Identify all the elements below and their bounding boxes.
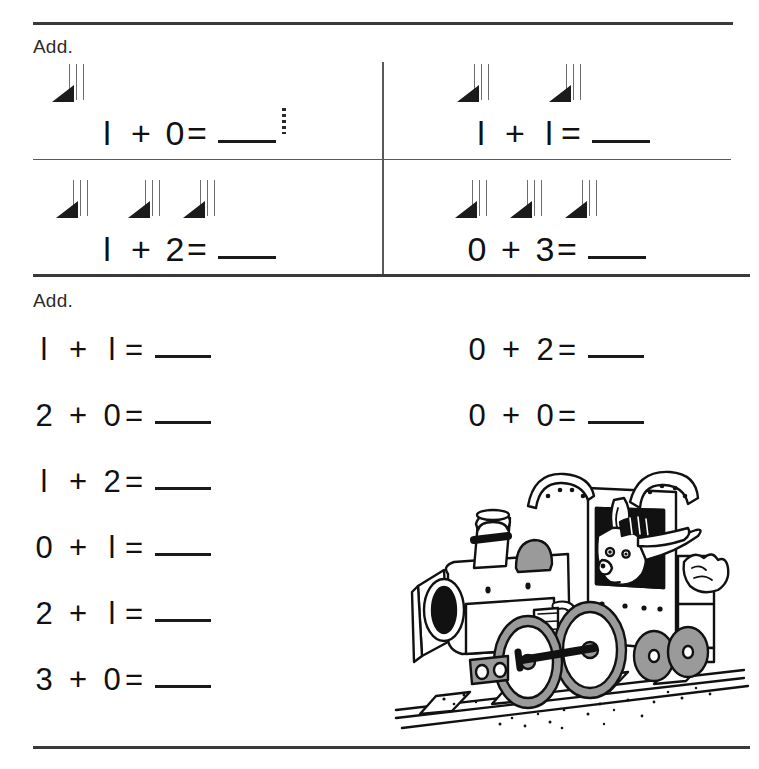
- list-problem-left-1: l + l =: [33, 334, 211, 365]
- smokestack: [474, 510, 510, 568]
- addend-2: l: [101, 532, 123, 563]
- bottom-border-rule: [33, 746, 750, 749]
- counter-block-icon: [52, 62, 94, 102]
- operator: +: [500, 232, 522, 266]
- counter-row-problem-2: [457, 62, 604, 102]
- answer-blank[interactable]: [155, 685, 211, 688]
- addend-1: 0: [466, 232, 488, 266]
- top-border-rule: [33, 22, 733, 25]
- addend-2: l: [101, 334, 123, 365]
- equals-sign: =: [186, 232, 208, 266]
- counter-block-icon: [510, 178, 552, 218]
- list-problem-left-2: 2 + 0 =: [33, 400, 211, 431]
- counter-block-icon: [455, 178, 497, 218]
- equals-sign: =: [123, 334, 145, 365]
- stack-band: [474, 536, 508, 540]
- addend-1: 0: [466, 334, 488, 365]
- counter-block-icon: [457, 62, 499, 102]
- addend-1: l: [470, 116, 492, 150]
- addend-2: 0: [101, 664, 123, 695]
- equals-sign: =: [123, 664, 145, 695]
- addend-1: l: [96, 116, 118, 150]
- counter-block-icon: [183, 178, 225, 218]
- answer-blank[interactable]: [155, 487, 211, 490]
- equals-sign: =: [556, 400, 578, 431]
- operator: +: [130, 116, 152, 150]
- operator: +: [500, 400, 522, 431]
- answer-blank[interactable]: [155, 553, 211, 556]
- operator: +: [67, 532, 89, 563]
- operator: +: [67, 400, 89, 431]
- equals-sign: =: [123, 532, 145, 563]
- operator: +: [67, 334, 89, 365]
- counter-block-icon: [56, 178, 98, 218]
- section-divider-rule: [33, 274, 750, 277]
- equals-sign: =: [556, 334, 578, 365]
- front-small-wheels: [470, 656, 508, 684]
- answer-blank[interactable]: [588, 256, 646, 259]
- section-2-instruction: Add.: [33, 290, 73, 312]
- list-problem-right-2: 0 + 0 =: [466, 400, 644, 431]
- addend-1: l: [33, 466, 55, 497]
- operator: +: [67, 664, 89, 695]
- list-problem-left-3: l + 2 =: [33, 466, 211, 497]
- problem-2: l + l =: [470, 116, 650, 150]
- equals-sign: =: [123, 598, 145, 629]
- answer-blank[interactable]: [218, 256, 276, 259]
- addend-1: 3: [33, 664, 55, 695]
- counter-row-problem-4: [455, 178, 620, 218]
- problem-3: l + 2 =: [96, 232, 276, 266]
- equals-sign: =: [186, 116, 208, 150]
- train-illustration: [392, 452, 752, 737]
- problem-4: 0 + 3 =: [466, 232, 646, 266]
- equals-sign: =: [123, 400, 145, 431]
- list-problem-left-4: 0 + l =: [33, 532, 211, 563]
- equals-sign: =: [123, 466, 145, 497]
- addend-2: 2: [164, 232, 186, 266]
- addend-2: 0: [534, 400, 556, 431]
- operator: +: [500, 334, 522, 365]
- counter-block-icon: [128, 178, 170, 218]
- worksheet-page: Add.: [0, 0, 759, 769]
- list-problem-right-1: 0 + 2 =: [466, 334, 644, 365]
- addend-1: 2: [33, 598, 55, 629]
- addend-1: 0: [33, 532, 55, 563]
- addend-2: 0: [164, 116, 186, 150]
- addend-1: 0: [466, 400, 488, 431]
- addend-1: l: [96, 232, 118, 266]
- answer-blank[interactable]: [588, 355, 644, 358]
- smokebox-door: [432, 587, 456, 633]
- answer-blank[interactable]: [155, 619, 211, 622]
- waving-paw: [684, 554, 729, 592]
- section-1-instruction: Add.: [33, 36, 73, 58]
- counter-block-icon: [549, 62, 591, 102]
- addend-1: l: [33, 334, 55, 365]
- operator: +: [67, 466, 89, 497]
- operator: +: [504, 116, 526, 150]
- answer-blank[interactable]: [155, 355, 211, 358]
- problem-1: l + 0 =: [96, 116, 276, 150]
- answer-blank[interactable]: [588, 421, 644, 424]
- operator: +: [130, 232, 152, 266]
- grid-vertical-rule: [382, 62, 384, 275]
- counter-row-problem-3: [56, 178, 238, 218]
- equals-sign: =: [556, 232, 578, 266]
- steam-dome: [516, 540, 552, 572]
- counter-block-icon: [565, 178, 607, 218]
- answer-blank[interactable]: [592, 140, 650, 143]
- addend-2: l: [101, 598, 123, 629]
- addend-2: l: [538, 116, 560, 150]
- addend-2: 2: [101, 466, 123, 497]
- stray-pen-mark: [282, 108, 286, 134]
- addend-2: 0: [101, 400, 123, 431]
- list-problem-left-6: 3 + 0 =: [33, 664, 211, 695]
- addend-2: 2: [534, 334, 556, 365]
- addend-2: 3: [534, 232, 556, 266]
- answer-blank[interactable]: [218, 140, 276, 143]
- equals-sign: =: [560, 116, 582, 150]
- counter-row-problem-1: [52, 62, 107, 102]
- list-problem-left-5: 2 + l =: [33, 598, 211, 629]
- addend-1: 2: [33, 400, 55, 431]
- operator: +: [67, 598, 89, 629]
- answer-blank[interactable]: [155, 421, 211, 424]
